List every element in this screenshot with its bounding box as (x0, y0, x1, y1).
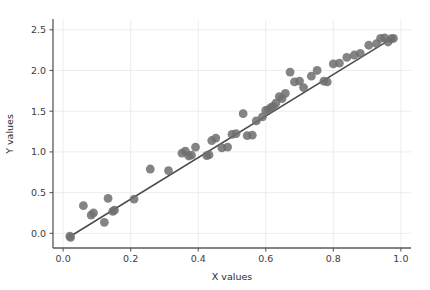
scatter-point (110, 206, 119, 215)
scatter-point (286, 68, 295, 77)
scatter-point (356, 49, 365, 58)
scatter-point (211, 134, 220, 143)
scatter-point (79, 201, 88, 210)
scatter-point (281, 89, 290, 98)
scatter-point (187, 151, 196, 160)
scatter-point (100, 218, 109, 227)
scatter-point (313, 66, 322, 75)
scatter-point (299, 83, 308, 92)
scatter-point (104, 194, 113, 203)
scatter-point (248, 131, 257, 140)
x-tick-label: 0.0 (56, 253, 71, 264)
scatter-plot-figure: 0.00.20.40.60.81.00.00.51.01.52.02.5X va… (0, 0, 430, 290)
scatter-point (232, 129, 241, 138)
y-tick-label: 1.5 (31, 106, 46, 117)
y-tick-label: 2.5 (31, 24, 46, 35)
scatter-point (205, 150, 214, 159)
scatter-point (146, 165, 155, 174)
scatter-point (130, 195, 139, 204)
y-tick-label: 0.5 (31, 187, 46, 198)
scatter-point (335, 59, 344, 68)
y-tick-label: 2.0 (31, 65, 46, 76)
x-axis-title: X values (212, 271, 252, 282)
x-tick-label: 1.0 (393, 253, 408, 264)
scatter-point (389, 34, 398, 43)
scatter-point (223, 143, 232, 152)
y-tick-label: 0.0 (31, 228, 46, 239)
y-axis-title: Y values (4, 114, 15, 155)
scatter-point (89, 209, 98, 218)
scatter-point (66, 233, 75, 242)
plot-canvas: 0.00.20.40.60.81.00.00.51.01.52.02.5X va… (0, 0, 430, 290)
scatter-point (191, 143, 200, 152)
scatter-point (364, 41, 373, 50)
x-tick-label: 0.8 (326, 253, 341, 264)
x-tick-label: 0.4 (191, 253, 206, 264)
scatter-point (323, 77, 332, 86)
x-tick-label: 0.2 (123, 253, 138, 264)
scatter-point (164, 166, 173, 175)
scatter-point (239, 109, 248, 118)
x-tick-label: 0.6 (258, 253, 273, 264)
y-tick-label: 1.0 (31, 146, 46, 157)
